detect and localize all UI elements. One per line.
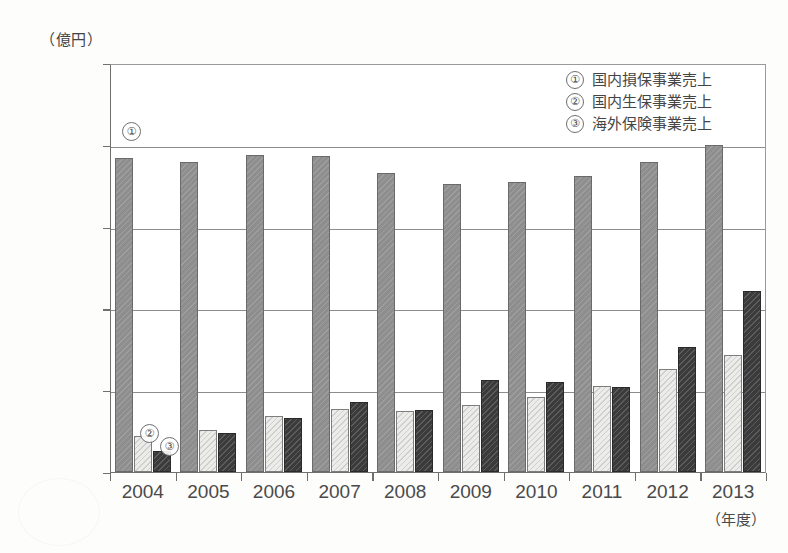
bar-2010-series-3[interactable]	[546, 382, 564, 472]
bar-group	[443, 63, 499, 472]
x-axis-tick-label-2009: 2009	[436, 481, 506, 503]
bar-2007-series-2[interactable]	[331, 409, 349, 472]
bar-group	[377, 63, 433, 472]
y-axis-tick-mark	[103, 64, 110, 65]
legend-item-3[interactable]: ③海外保険事業売上	[566, 114, 712, 134]
x-axis-tick-mark	[307, 473, 308, 481]
legend-marker-icon: ①	[566, 71, 584, 89]
y-axis-tick-mark	[103, 309, 110, 310]
x-axis-tick-mark	[241, 473, 242, 481]
bar-2012-series-2[interactable]	[659, 369, 677, 472]
bar-2011-series-2[interactable]	[593, 386, 611, 472]
bar-2006-series-1[interactable]	[246, 155, 264, 472]
y-axis-unit-label: （億円）	[40, 28, 102, 49]
x-axis-tick-mark	[176, 473, 177, 481]
legend-item-label: 海外保険事業売上	[592, 114, 712, 134]
x-axis-tick-label-2004: 2004	[108, 481, 178, 503]
x-axis-unit-label: （年度）	[706, 508, 766, 529]
legend: ①国内損保事業売上②国内生保事業売上③海外保険事業売上	[566, 70, 712, 136]
y-axis-tick-mark	[103, 391, 110, 392]
bar-group	[115, 63, 171, 472]
x-axis-tick-label-2006: 2006	[239, 481, 309, 503]
legend-item-label: 国内生保事業売上	[592, 92, 712, 112]
bar-2008-series-3[interactable]	[415, 410, 433, 472]
x-axis-tick-label-2010: 2010	[501, 481, 571, 503]
bar-2009-series-1[interactable]	[443, 184, 461, 472]
bar-2012-series-1[interactable]	[640, 162, 658, 472]
y-axis-tick-mark	[103, 228, 110, 229]
bar-2011-series-1[interactable]	[574, 176, 592, 472]
x-axis-tick-label-2007: 2007	[305, 481, 375, 503]
x-axis-tick-mark	[504, 473, 505, 481]
y-axis-tick-mark	[103, 473, 110, 474]
legend-item-label: 国内損保事業売上	[592, 70, 712, 90]
bar-2007-series-1[interactable]	[312, 156, 330, 472]
bar-group	[705, 63, 761, 472]
bar-2004-series-1[interactable]	[115, 158, 133, 472]
bar-2008-series-2[interactable]	[396, 411, 414, 472]
legend-item-1[interactable]: ①国内損保事業売上	[566, 70, 712, 90]
callout-series-1: ①	[122, 122, 141, 141]
bar-2009-series-3[interactable]	[481, 380, 499, 472]
bar-2013-series-3[interactable]	[743, 291, 761, 472]
scan-artifact	[18, 478, 100, 546]
bar-2005-series-2[interactable]	[199, 430, 217, 472]
x-axis-tick-mark	[569, 473, 570, 481]
legend-marker-icon: ③	[566, 115, 584, 133]
x-axis-tick-label-2011: 2011	[567, 481, 637, 503]
bar-group	[246, 63, 302, 472]
bar-2008-series-1[interactable]	[377, 173, 395, 472]
bar-group	[180, 63, 236, 472]
bar-2010-series-2[interactable]	[527, 397, 545, 472]
x-axis-tick-mark	[372, 473, 373, 481]
x-axis-tick-label-2013: 2013	[698, 481, 768, 503]
bar-group	[508, 63, 564, 472]
bar-2005-series-3[interactable]	[218, 433, 236, 472]
bar-2013-series-2[interactable]	[724, 355, 742, 472]
x-axis-tick-mark	[110, 473, 111, 481]
bar-2007-series-3[interactable]	[350, 402, 368, 472]
x-axis-tick-mark	[700, 473, 701, 481]
bar-2005-series-1[interactable]	[180, 162, 198, 472]
x-axis-tick-mark	[438, 473, 439, 481]
y-axis-tick-mark	[103, 146, 110, 147]
bar-2006-series-3[interactable]	[284, 418, 302, 472]
legend-marker-icon: ②	[566, 93, 584, 111]
chart-page: （億円） 05,00010,00015,00020,00025,000 2004…	[0, 0, 788, 553]
legend-item-2[interactable]: ②国内生保事業売上	[566, 92, 712, 112]
bar-2013-series-1[interactable]	[705, 145, 723, 472]
x-axis-tick-mark	[635, 473, 636, 481]
bar-2011-series-3[interactable]	[612, 387, 630, 472]
bar-group	[312, 63, 368, 472]
bar-2012-series-3[interactable]	[678, 347, 696, 472]
x-axis-tick-mark	[766, 473, 767, 481]
bar-2010-series-1[interactable]	[508, 182, 526, 472]
x-axis-tick-label-2012: 2012	[633, 481, 703, 503]
bar-2009-series-2[interactable]	[462, 405, 480, 472]
callout-series-2: ②	[140, 424, 159, 443]
x-axis-tick-label-2005: 2005	[173, 481, 243, 503]
bar-2006-series-2[interactable]	[265, 416, 283, 472]
callout-series-3: ③	[160, 437, 179, 456]
x-axis-tick-label-2008: 2008	[370, 481, 440, 503]
